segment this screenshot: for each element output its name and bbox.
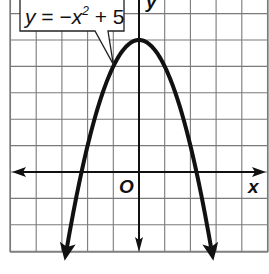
equation-label: y = −x2 + 5	[23, 4, 125, 28]
y-axis-label: y	[145, 0, 158, 12]
origin-label: O	[119, 176, 134, 197]
x-axis-label: x	[247, 176, 260, 197]
axes	[12, 0, 266, 252]
parabola-chart: y = −x2 + 5 x y O	[0, 0, 269, 274]
